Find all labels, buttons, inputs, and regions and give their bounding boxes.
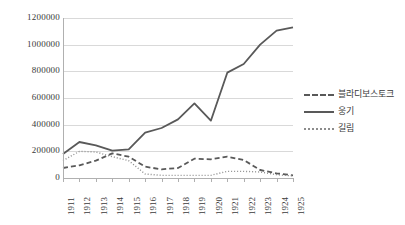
x-axis-tick-mark xyxy=(129,178,130,182)
y-axis-labels: 120000010000008000006000004000002000000 xyxy=(0,18,60,178)
legend-item-label: 웅기 xyxy=(338,106,354,117)
y-axis-tick-label: 1000000 xyxy=(2,40,60,49)
legend-item-label: 블라디보스토크 xyxy=(338,89,394,100)
x-axis-tick-label: 1911 xyxy=(67,197,76,215)
x-axis-tick-label: 1924 xyxy=(281,197,290,215)
x-axis-tick-label: 1917 xyxy=(166,197,175,215)
series-lines xyxy=(63,18,293,178)
x-axis-tick-mark xyxy=(211,178,212,182)
y-axis-tick-label: 600000 xyxy=(2,93,60,102)
legend-item[interactable]: 웅기 xyxy=(304,103,404,120)
legend-swatch-icon xyxy=(304,124,334,134)
chart-legend: 블라디보스토크웅기길림 xyxy=(304,86,404,137)
y-axis-tick-label: 200000 xyxy=(2,146,60,155)
x-axis-tick-mark xyxy=(145,178,146,182)
series-line xyxy=(63,151,293,176)
y-axis-tick-label: 400000 xyxy=(2,120,60,129)
x-axis-tick-label: 1918 xyxy=(182,197,191,215)
series-line xyxy=(63,27,293,154)
x-axis-tick-mark xyxy=(277,178,278,182)
x-axis-tick-label: 1925 xyxy=(297,197,306,215)
x-axis-tick-label: 1921 xyxy=(231,197,240,215)
x-axis-tick-mark xyxy=(79,178,80,182)
x-axis-tick-label: 1919 xyxy=(198,197,207,215)
x-axis-tick-label: 1915 xyxy=(133,197,142,215)
x-axis-tick-mark xyxy=(244,178,245,182)
x-axis-tick-label: 1912 xyxy=(83,197,92,215)
y-axis-line xyxy=(63,18,64,179)
x-axis-labels: 1911191219131914191519161917191819191920… xyxy=(63,183,294,223)
legend-item[interactable]: 블라디보스토크 xyxy=(304,86,404,103)
legend-item[interactable]: 길림 xyxy=(304,120,404,137)
x-axis-tick-mark xyxy=(260,178,261,182)
x-axis-tick-label: 1922 xyxy=(248,197,257,215)
x-axis-tick-label: 1920 xyxy=(215,197,224,215)
x-axis-tick-label: 1916 xyxy=(149,197,158,215)
y-axis-tick-label: 800000 xyxy=(2,66,60,75)
legend-swatch-icon xyxy=(304,90,334,100)
y-axis-tick-label: 0 xyxy=(2,173,60,182)
x-axis-tick-mark xyxy=(178,178,179,182)
legend-swatch-icon xyxy=(304,107,334,117)
x-axis-tick-mark xyxy=(227,178,228,182)
x-axis-tick-mark xyxy=(293,178,294,182)
x-axis-tick-label: 1914 xyxy=(116,197,125,215)
x-axis-tick-mark xyxy=(112,178,113,182)
x-axis-tick-label: 1923 xyxy=(264,197,273,215)
plot-area xyxy=(63,18,293,178)
x-axis-tick-label: 1913 xyxy=(100,197,109,215)
x-axis-tick-mark xyxy=(96,178,97,182)
legend-item-label: 길림 xyxy=(338,123,354,134)
y-axis-tick-label: 1200000 xyxy=(2,13,60,22)
x-axis-tick-mark xyxy=(63,178,64,182)
x-axis-tick-mark xyxy=(194,178,195,182)
line-chart: 120000010000008000006000004000002000000 … xyxy=(0,0,405,225)
x-axis-tick-mark xyxy=(162,178,163,182)
